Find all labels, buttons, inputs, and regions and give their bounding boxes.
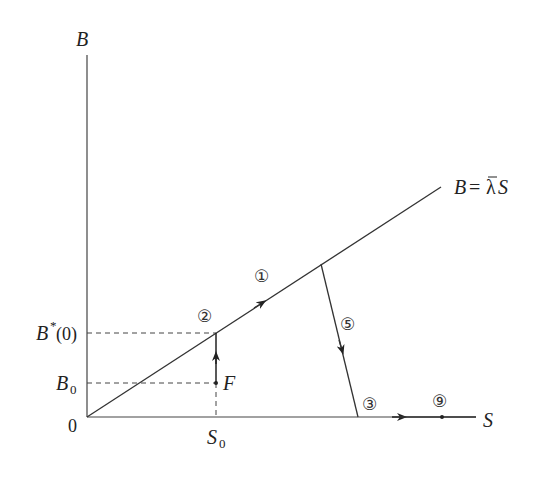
arrow-1-icon	[254, 303, 262, 308]
marker-5: ⑤	[340, 314, 355, 334]
lambda-line	[87, 187, 441, 417]
s0-sub: 0	[219, 436, 226, 451]
point-f-label: F	[222, 372, 236, 394]
marker-9: ⑨	[432, 391, 447, 411]
marker-3: ③	[362, 394, 377, 414]
eq-lhs: B	[454, 176, 466, 198]
eq-sign: =	[469, 176, 480, 198]
eq-rhs: S	[498, 176, 508, 198]
x-axis-label: S	[483, 409, 493, 431]
origin-label: 0	[68, 416, 77, 436]
phase-diagram: B S 0 B = λ S B * (0) B 0 S 0 F ① ② ③ ⑤ …	[0, 0, 542, 477]
b-star-arg: (0)	[56, 324, 77, 345]
marker-2: ②	[197, 306, 212, 326]
s0-main: S	[207, 426, 217, 448]
line-equation-label: B = λ S	[454, 176, 508, 198]
eq-lambda: λ	[486, 176, 496, 198]
point-9-dot	[440, 415, 444, 419]
arrow-down-icon	[339, 340, 342, 350]
b-star-label: B * (0)	[36, 318, 77, 345]
b0-label: B 0	[56, 372, 77, 397]
point-f-dot	[214, 381, 218, 385]
y-axis-label: B	[76, 28, 88, 50]
s0-label: S 0	[207, 426, 226, 451]
b0-sub: 0	[70, 382, 77, 397]
b-star-main: B	[36, 322, 48, 344]
marker-1: ①	[254, 266, 269, 286]
b0-main: B	[56, 372, 68, 394]
